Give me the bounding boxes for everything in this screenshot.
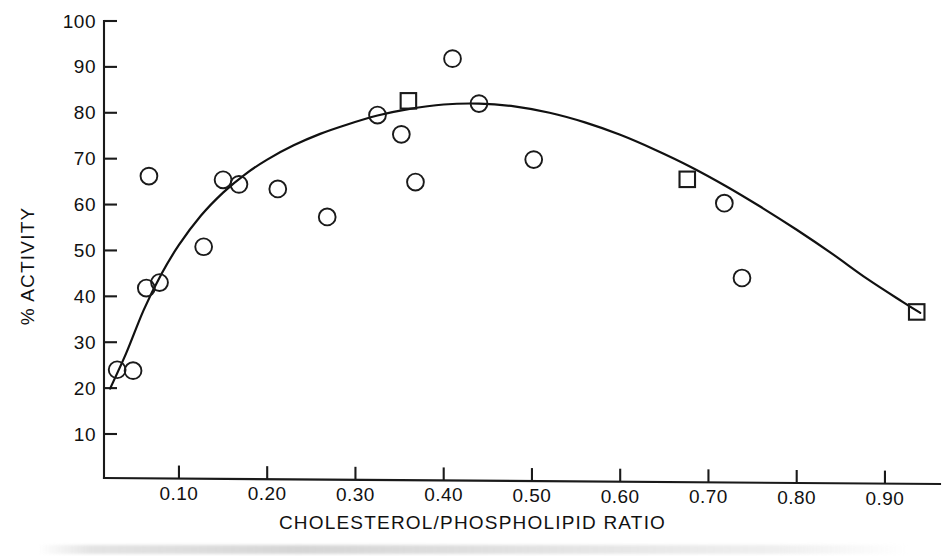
x-tick-label: 0.60 bbox=[601, 486, 640, 507]
figure-container: 102030405060708090100 0.100.200.300.400.… bbox=[0, 0, 945, 556]
data-point-circle bbox=[444, 50, 461, 67]
data-point-circle bbox=[319, 209, 336, 226]
x-tick-label: 0.10 bbox=[159, 483, 198, 504]
y-tick-label: 70 bbox=[74, 148, 96, 169]
x-tick-label: 0.20 bbox=[248, 483, 287, 504]
data-point-circle bbox=[269, 181, 286, 198]
data-point-circle bbox=[393, 126, 410, 143]
fitted-trend-curve bbox=[110, 103, 920, 388]
x-tick-label: 0.30 bbox=[336, 484, 375, 505]
data-point-circle bbox=[215, 171, 232, 188]
data-point-circle bbox=[407, 174, 424, 191]
data-point-square bbox=[680, 172, 696, 188]
y-tick-label: 80 bbox=[74, 102, 96, 123]
y-tick-label: 50 bbox=[74, 240, 96, 261]
data-point-circle bbox=[125, 362, 142, 379]
x-axis-ticks: 0.100.200.300.400.500.600.700.800.90 bbox=[159, 466, 904, 509]
y-tick-label: 30 bbox=[74, 332, 96, 353]
scatter-plot: 102030405060708090100 0.100.200.300.400.… bbox=[0, 0, 945, 556]
y-tick-label: 40 bbox=[74, 286, 96, 307]
x-tick-label: 0.40 bbox=[424, 484, 463, 505]
data-point-square bbox=[401, 93, 417, 109]
data-point-circle bbox=[716, 195, 733, 212]
data-markers bbox=[109, 50, 925, 379]
y-tick-label: 90 bbox=[74, 56, 96, 77]
y-axis-ticks: 102030405060708090100 bbox=[63, 11, 117, 445]
y-axis-title: % ACTIVITY bbox=[17, 166, 39, 366]
x-tick-label: 0.50 bbox=[512, 485, 551, 506]
x-tick-label: 0.70 bbox=[689, 486, 728, 507]
y-tick-label: 60 bbox=[74, 194, 96, 215]
y-tick-label: 100 bbox=[63, 11, 96, 32]
x-tick-label: 0.80 bbox=[777, 487, 816, 508]
y-tick-label: 10 bbox=[74, 424, 96, 445]
y-tick-label: 20 bbox=[74, 378, 96, 399]
data-point-circle bbox=[734, 270, 751, 287]
x-axis-title: CHOLESTEROL/PHOSPHOLIPID RATIO bbox=[0, 512, 945, 534]
data-point-circle bbox=[195, 238, 212, 255]
x-tick-label: 0.90 bbox=[865, 488, 904, 509]
data-point-circle bbox=[525, 151, 542, 168]
data-point-circle bbox=[141, 168, 158, 185]
x-axis-line bbox=[104, 478, 940, 484]
